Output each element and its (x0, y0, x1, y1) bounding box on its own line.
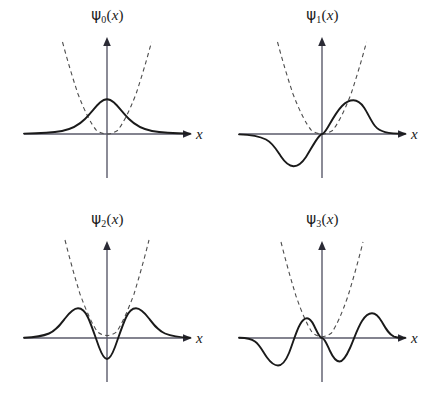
panel-psi-2-plot (0, 204, 215, 408)
y-axis (318, 241, 326, 382)
panel-psi-3: ψ3(x) x (215, 204, 430, 408)
y-axis (103, 37, 111, 178)
panel-psi-0: ψ0(x) x (0, 0, 215, 204)
panel-psi-2: ψ2(x) x (0, 204, 215, 408)
y-axis (103, 241, 111, 382)
panel-psi-1: ψ1(x) x (215, 0, 430, 204)
wavefunction-figure: ψ0(x) x ψ1(x) x (0, 0, 430, 408)
panel-psi-0-plot (0, 0, 215, 204)
panel-psi-3-plot (215, 204, 430, 408)
y-axis (318, 37, 326, 178)
panel-psi-1-plot (215, 0, 430, 204)
